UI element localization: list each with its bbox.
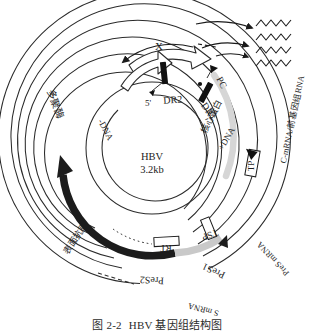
pc-dot	[198, 82, 202, 86]
label-pres-mrna: PreS mRNA	[254, 239, 291, 278]
c-mrna-arrow-3	[216, 54, 248, 57]
label-minus-dna: -DNA	[96, 117, 116, 142]
label-rt: RT	[160, 243, 172, 253]
five-prime-leader	[152, 82, 163, 91]
dna-strand-rings	[86, 82, 218, 214]
label-dr2: DR2	[163, 93, 183, 105]
ring-s-mrna-dash	[98, 273, 134, 284]
surface-antigen-arrowhead	[57, 155, 73, 178]
ring-minus-dna	[86, 82, 218, 214]
label-tp: TP	[246, 161, 256, 172]
hbv-genome-figure: HBV 3.2kb X DR2 5' DR1 PC -DNA +DNA TP R…	[0, 0, 315, 332]
label-c-mrna: C-mRNA/前基因组RNA	[278, 74, 307, 164]
polymerase-dotted-arc	[113, 229, 152, 244]
ring-s-mrna	[0, 0, 290, 284]
figure-caption: 图 2-2HBV 基因组结构图	[0, 316, 315, 332]
poly-a-tail-1	[256, 20, 291, 26]
center-label-size: 3.2kb	[140, 164, 164, 175]
outer-transcript-rings	[0, 0, 290, 284]
c-mrna-arrow-1	[196, 22, 252, 28]
label-pres2: PreS2	[140, 274, 164, 286]
label-five-prime: 5'	[145, 98, 152, 108]
figure-caption-number: 图 2-2	[92, 319, 121, 331]
figure-caption-title: HBV 基因组结构图	[129, 319, 223, 331]
pres1-segment	[175, 238, 221, 253]
label-x-orf: X	[155, 40, 163, 52]
label-pres1: PreS1	[200, 261, 226, 281]
hbv-genome-diagram: HBV 3.2kb X DR2 5' DR1 PC -DNA +DNA TP R…	[0, 0, 315, 332]
ring-plus-dna	[102, 95, 208, 201]
poly-a-tails	[256, 20, 291, 66]
poly-a-tail-4	[256, 60, 291, 66]
center-label-name: HBV	[141, 151, 164, 162]
poly-a-tail-2	[256, 34, 291, 40]
label-polymerase-cn: 多聚酶	[45, 87, 67, 119]
